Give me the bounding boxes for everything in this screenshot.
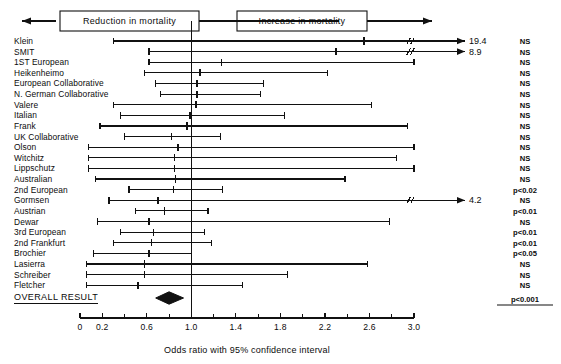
study-label: 2nd Frankfurt <box>14 238 65 248</box>
significance-label: p<0.01 <box>497 238 553 247</box>
significance-label: NS <box>497 175 553 184</box>
study-label: N. German Collaborative <box>14 89 108 99</box>
x-tick-label: 0.2 <box>96 322 109 332</box>
significance-label: NS <box>497 281 553 290</box>
significance-label: p<0.01 <box>497 206 553 215</box>
study-label: Klein <box>14 36 33 46</box>
x-axis-title: Odds ratio with 95% confidence interval <box>164 345 330 355</box>
significance-label: NS <box>497 260 553 269</box>
study-label: SMIT <box>14 47 34 57</box>
study-label: Schreiber <box>14 270 51 280</box>
significance-label: p<0.02 <box>497 185 553 194</box>
significance-label: NS <box>497 37 553 46</box>
study-label: Dewar <box>14 217 39 227</box>
study-label: Brochier <box>14 248 46 258</box>
x-tick-label: 1.4 <box>230 322 243 332</box>
off-scale-value: 4.2 <box>469 195 482 205</box>
study-label: Witchitz <box>14 153 44 163</box>
significance-label: NS <box>497 132 553 141</box>
overall-diamond <box>156 292 184 304</box>
study-label: Olson <box>14 142 36 152</box>
study-label: Australian <box>14 174 52 184</box>
x-tick-label: 3.0 <box>408 322 421 332</box>
significance-label: p<0.01 <box>497 228 553 237</box>
overall-result-label: OVERALL RESULT <box>14 292 98 304</box>
significance-label: NS <box>497 47 553 56</box>
off-scale-value: 19.4 <box>469 36 487 46</box>
study-label: 2nd European <box>14 185 68 195</box>
x-tick-label: 2.6 <box>363 322 376 332</box>
significance-label: NS <box>497 164 553 173</box>
study-label: Lippschutz <box>14 163 55 173</box>
ci-arrowhead <box>457 48 465 55</box>
significance-label: NS <box>497 217 553 226</box>
significance-label: NS <box>497 270 553 279</box>
significance-label: NS <box>497 68 553 77</box>
significance-label: NS <box>497 90 553 99</box>
overall-significance: p<0.001 <box>497 295 553 306</box>
significance-label: NS <box>497 121 553 130</box>
study-label: Heikenheimo <box>14 68 64 78</box>
off-scale-value: 8.9 <box>469 47 482 57</box>
significance-label: NS <box>497 58 553 67</box>
significance-label: NS <box>497 153 553 162</box>
reduction-arrowhead <box>22 18 31 25</box>
x-tick-label: 1.8 <box>274 322 287 332</box>
significance-label: NS <box>497 143 553 152</box>
study-label: 3rd European <box>14 227 66 237</box>
significance-label: NS <box>497 79 553 88</box>
study-label: UK Collaborative <box>14 132 78 142</box>
study-label: 1ST European <box>14 57 69 67</box>
significance-label: p<0.05 <box>497 249 553 258</box>
x-tick-label: 1.0 <box>185 322 198 332</box>
significance-label: NS <box>497 196 553 205</box>
ci-arrowhead <box>457 197 465 204</box>
study-label: Valere <box>14 100 38 110</box>
study-label: Lasierra <box>14 259 45 269</box>
reduction-header-label: Reduction in mortality <box>83 16 176 26</box>
study-label: Italian <box>14 110 37 120</box>
study-label: Fletcher <box>14 280 45 290</box>
significance-label: NS <box>497 100 553 109</box>
study-label: Gormsen <box>14 195 49 205</box>
x-tick-label: 0 <box>78 322 83 332</box>
significance-label: NS <box>497 111 553 120</box>
study-label: European Collaborative <box>14 78 104 88</box>
x-tick-label: 2.2 <box>319 322 332 332</box>
increase-header-label: Increase in mortality <box>259 16 346 26</box>
ci-arrowhead <box>457 38 465 45</box>
x-tick-label: 0.6 <box>141 322 154 332</box>
increase-arrowhead <box>423 18 432 25</box>
study-label: Austrian <box>14 206 46 216</box>
study-label: Frank <box>14 121 36 131</box>
